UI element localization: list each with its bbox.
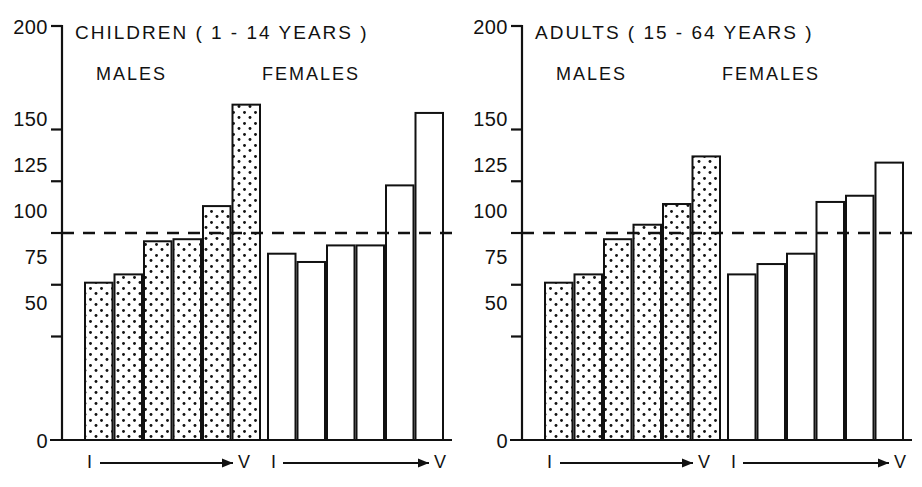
children-ytick-label-200: 200: [4, 16, 48, 39]
children-ytick-label-50: 50: [4, 292, 48, 315]
chart-panel-children: 200 150 125 100 75 50 0 CHILDREN ( 1 - 1…: [0, 0, 462, 487]
adults-males-axis-start-label: I: [547, 452, 552, 473]
adults-ytick-label-150: 150: [464, 108, 508, 131]
children-ytick-label-0: 0: [4, 430, 48, 453]
children-females-axis-start-label: I: [271, 452, 276, 473]
adults-females-axis-end-label: V: [894, 452, 906, 473]
adults-ytick-label-100: 100: [464, 200, 508, 223]
adults-ytick-label-200: 200: [464, 16, 508, 39]
adults-ytick-label-75: 75: [464, 246, 508, 269]
adults-ytick-label-50: 50: [464, 292, 508, 315]
children-ytick-label-125: 125: [4, 154, 48, 177]
adults-females-axis-start-label: I: [731, 452, 736, 473]
adults-males-group-label: MALES: [556, 64, 627, 85]
adults-males-axis-end-label: V: [698, 452, 710, 473]
children-females-group-label: FEMALES: [262, 64, 360, 85]
children-plot-area: [0, 0, 462, 487]
children-ytick-label-150: 150: [4, 108, 48, 131]
adults-ytick-label-0: 0: [464, 430, 508, 453]
adults-plot-area: [460, 0, 922, 487]
chart-panel-adults: 200 150 125 100 75 50 0 ADULTS ( 15 - 64…: [460, 0, 922, 487]
children-ytick-label-75: 75: [4, 246, 48, 269]
children-males-group-label: MALES: [96, 64, 167, 85]
adults-chart-title: ADULTS ( 15 - 64 YEARS ): [535, 22, 814, 44]
figure-root: 200 150 125 100 75 50 0 CHILDREN ( 1 - 1…: [0, 0, 922, 487]
adults-females-group-label: FEMALES: [722, 64, 820, 85]
children-males-axis-end-label: V: [238, 452, 250, 473]
children-ytick-label-100: 100: [4, 200, 48, 223]
children-females-axis-end-label: V: [434, 452, 446, 473]
children-males-axis-start-label: I: [87, 452, 92, 473]
adults-ytick-label-125: 125: [464, 154, 508, 177]
children-chart-title: CHILDREN ( 1 - 14 YEARS ): [75, 22, 369, 44]
